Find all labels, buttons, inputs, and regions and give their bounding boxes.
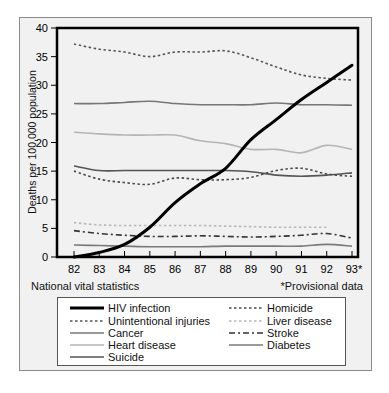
- x-tick-label: 87: [194, 263, 206, 275]
- source-note: National vital statistics: [31, 280, 139, 292]
- legend-swatch-icon: [229, 329, 263, 337]
- y-axis: 0510152025303540: [36, 22, 57, 263]
- y-tick-label: 0: [42, 251, 48, 263]
- legend-swatch-icon: [70, 317, 104, 325]
- series-line-liver-disease: [74, 223, 327, 228]
- legend-swatch-icon: [70, 353, 104, 361]
- y-axis-label: Deaths per 100,000 population: [26, 70, 38, 214]
- legend-swatch-icon: [229, 304, 263, 312]
- series-line-unintentional-injuries: [74, 44, 352, 80]
- series-line-cancer: [74, 101, 352, 105]
- x-tick-label: 83: [93, 263, 105, 275]
- legend-item-cancer: Cancer: [70, 327, 143, 339]
- legend-item-diabetes: Diabetes: [229, 339, 310, 351]
- x-tick-label: 92: [321, 263, 333, 275]
- x-tick-label: 84: [118, 263, 130, 275]
- legend-item-stroke: Stroke: [229, 327, 299, 339]
- legend-swatch-icon: [229, 341, 263, 349]
- x-tick-label: 93*: [346, 263, 363, 275]
- y-tick-label: 40: [36, 22, 48, 34]
- x-tick-label: 91: [295, 263, 307, 275]
- x-axis: 828384858687888990919293*: [68, 251, 363, 275]
- x-tick-label: 89: [245, 263, 257, 275]
- series-line-suicide: [74, 166, 352, 176]
- legend-swatch-icon: [70, 341, 104, 349]
- series-line-stroke: [74, 231, 352, 238]
- x-tick-label: 85: [144, 263, 156, 275]
- legend-swatch-icon: [70, 329, 104, 337]
- legend-item-heart-disease: Heart disease: [70, 339, 176, 351]
- legend-item-homicide: Homicide: [229, 302, 313, 314]
- legend-swatch-icon: [229, 317, 263, 325]
- provisional-note: *Provisional data: [280, 280, 363, 292]
- legend-item-liver-disease: Liver disease: [229, 315, 332, 327]
- chart-lines: [74, 44, 352, 257]
- y-tick-label: 5: [42, 222, 48, 234]
- legend-item-suicide: Suicide: [70, 351, 144, 363]
- legend: HIV infection Unintentional injuries Can…: [57, 297, 346, 366]
- x-tick-label: 86: [169, 263, 181, 275]
- y-tick-label: 35: [36, 51, 48, 63]
- series-line-heart-disease: [74, 132, 352, 153]
- x-tick-label: 88: [220, 263, 232, 275]
- series-line-hiv-infection: [74, 65, 352, 257]
- x-tick-label: 82: [68, 263, 80, 275]
- legend-item-unintentional-injuries: Unintentional injuries: [70, 315, 210, 327]
- legend-swatch-icon: [70, 304, 104, 312]
- legend-item-hiv: HIV infection: [70, 302, 170, 314]
- x-tick-label: 90: [270, 263, 282, 275]
